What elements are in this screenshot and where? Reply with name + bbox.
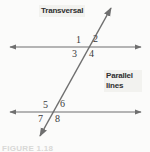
angle-label-6: 6 [60,99,65,109]
angle-label-8: 8 [55,114,60,124]
transversal-line [40,8,111,136]
angle-label-5: 5 [43,100,48,110]
angle-label-2: 2 [93,34,98,44]
parallel-lines-label: Parallel lines [104,70,142,92]
angle-label-7: 7 [38,114,43,124]
figure-caption: FIGURE 1.18 [2,144,53,152]
angle-label-1: 1 [76,35,81,45]
angle-label-3: 3 [72,49,77,59]
transversal-label: Transversal [39,5,85,17]
geometry-figure: Transversal Parallel lines 1 2 3 4 5 6 7… [0,0,150,152]
angle-label-4: 4 [89,49,94,59]
